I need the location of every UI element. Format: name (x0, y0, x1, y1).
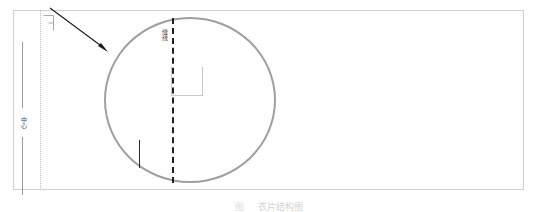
dimension-line-upper-segment (22, 42, 23, 108)
detail-annotation-label: 缝线 (151, 23, 167, 47)
detail-stitch-mark (139, 140, 140, 168)
detail-l-bracket (171, 67, 203, 96)
dimension-line-lower-segment (22, 137, 23, 195)
detail-view-circle (104, 17, 276, 183)
figure-caption-number: 图 (235, 200, 244, 212)
technical-drawing-canvas: 中心 缝线 图 衣片结构图 (0, 0, 538, 212)
figure-caption-text: 衣片结构图 (258, 200, 303, 212)
seam-dashed-line (172, 18, 174, 183)
detail-l-bracket-riser (202, 67, 203, 96)
fold-construction-line (40, 10, 41, 190)
figure-caption: 图 衣片结构图 (0, 200, 538, 212)
leader-arrow-icon (48, 6, 114, 58)
dimension-label-vertical: 中心 (14, 107, 32, 139)
